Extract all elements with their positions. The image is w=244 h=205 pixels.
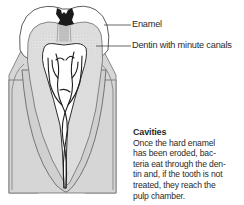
label-enamel: Enamel <box>132 19 162 30</box>
label-dentin: Dentin with minute canals <box>132 40 232 51</box>
caption-body: Once the hard enamel has been eroded, ba… <box>133 138 243 202</box>
caption-title: Cavities <box>133 127 243 138</box>
caption: Cavities Once the hard enamel has been e… <box>133 127 243 201</box>
